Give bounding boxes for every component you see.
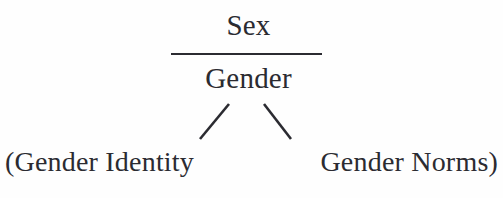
node-numerator-sex: Sex [0, 10, 503, 40]
node-denominator-gender: Gender [0, 62, 503, 94]
node-leaf-gender-identity: (Gender Identity [5, 146, 194, 178]
branch-left-slash-icon [200, 104, 229, 139]
branch-right-backslash-icon [264, 104, 291, 139]
fraction-bar-divider [171, 53, 322, 55]
diagram-canvas: Sex Gender (Gender Identity Gender Norms… [0, 0, 503, 198]
node-leaf-gender-norms: Gender Norms) [320, 146, 498, 178]
